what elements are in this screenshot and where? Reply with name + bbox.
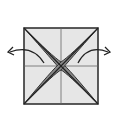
origami-diagram-svg [0, 0, 114, 115]
origami-diagram: Square paper with center crease lines an… [0, 0, 114, 115]
